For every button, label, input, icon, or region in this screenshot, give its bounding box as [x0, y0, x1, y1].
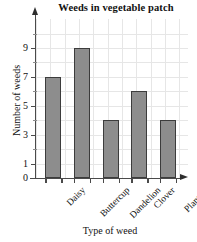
y-axis-minor-tick	[33, 62, 37, 63]
x-axis-tick	[119, 178, 120, 183]
y-axis-line	[35, 14, 36, 179]
x-axis-tick	[131, 178, 132, 183]
y-axis-minor-tick	[33, 120, 37, 121]
y-axis-tick-label: 1	[6, 159, 28, 169]
x-axis-category-label-plantain: Plantain	[182, 185, 197, 214]
y-axis-tick-label: 9	[6, 43, 28, 53]
y-axis-tick-label: 7	[6, 72, 28, 82]
x-axis-title: Type of weed	[30, 225, 190, 236]
bar	[131, 91, 147, 178]
x-axis-category-label-daisy: Daisy	[65, 185, 88, 208]
gridline-vertical	[122, 19, 123, 178]
y-axis-tick-label: 5	[6, 101, 28, 111]
right-arrow-icon	[180, 174, 188, 180]
chart-title: Weeds in vegetable patch	[40, 2, 192, 14]
gridline-vertical	[179, 19, 180, 178]
bar	[160, 120, 176, 178]
x-axis-category-label-buttercup: Buttercup	[98, 185, 132, 219]
x-axis-tick	[61, 178, 62, 183]
bar	[103, 120, 119, 178]
bar	[74, 48, 90, 178]
y-axis-tick	[31, 178, 36, 179]
y-axis-tick	[31, 164, 36, 165]
y-axis-tick-label: 3	[6, 130, 28, 140]
y-axis-tick	[31, 106, 36, 107]
y-axis-tick	[31, 48, 36, 49]
bar	[45, 77, 61, 178]
y-axis-minor-tick	[33, 34, 37, 35]
x-axis-tick	[176, 178, 177, 183]
y-axis-minor-tick	[33, 91, 37, 92]
y-axis-tick	[31, 135, 36, 136]
y-axis-tick-label: 0	[6, 173, 28, 183]
x-axis-tick	[74, 178, 75, 183]
x-axis-tick	[103, 178, 104, 183]
up-arrow-icon	[32, 7, 38, 15]
y-axis-tick	[31, 77, 36, 78]
y-axis-minor-tick	[33, 149, 37, 150]
gridline-vertical	[151, 19, 152, 178]
bar-chart: Weeds in vegetable patch Number of weeds…	[0, 0, 197, 242]
x-axis-tick	[160, 178, 161, 183]
gridline-vertical	[65, 19, 66, 178]
gridline-vertical	[93, 19, 94, 178]
x-axis-tick	[147, 178, 148, 183]
x-axis-tick	[90, 178, 91, 183]
x-axis-tick	[45, 178, 46, 183]
